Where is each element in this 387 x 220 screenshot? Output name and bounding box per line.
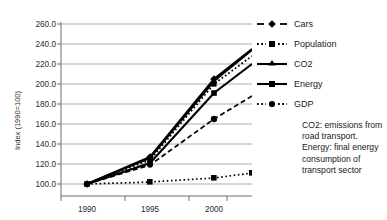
legend-item-population: Population xyxy=(256,34,387,54)
y-tick-label: 100.0 xyxy=(36,180,57,189)
line-chart: Index (1990=100) 100.0 120.0 140.0 160.0… xyxy=(0,0,252,220)
legend-item-energy: Energy xyxy=(256,74,387,94)
legend-label: Energy xyxy=(294,80,323,89)
x-tick-label: 2000 xyxy=(205,205,224,214)
y-tick-label: 120.0 xyxy=(36,160,57,169)
series-co2 xyxy=(84,50,252,186)
legend-label: Cars xyxy=(294,20,313,29)
series-long-dash xyxy=(87,96,252,184)
x-tick-label: 1995 xyxy=(141,205,160,214)
y-axis-tick-labels: 100.0 120.0 140.0 160.0 180.0 200.0 220.… xyxy=(36,20,57,189)
legend-label: GDP xyxy=(294,100,314,109)
dot-circle-key xyxy=(256,97,294,111)
y-tick-label: 200.0 xyxy=(36,80,57,89)
chart-figure: Index (1990=100) 100.0 120.0 140.0 160.0… xyxy=(0,0,387,220)
legend-item-gdp: GDP xyxy=(256,94,387,114)
legend-label: Population xyxy=(294,40,337,49)
solid-square-key xyxy=(256,77,294,91)
x-tick-label: 1990 xyxy=(78,205,97,214)
y-tick-label: 140.0 xyxy=(36,140,57,149)
legend-item-co2: CO2 xyxy=(256,54,387,74)
dash-diamond-key xyxy=(256,17,294,31)
y-axis-title: Index (1990=100) xyxy=(13,90,22,150)
chart-plot-panel: Index (1990=100) 100.0 120.0 140.0 160.0… xyxy=(0,0,252,220)
series-energy xyxy=(84,64,252,187)
chart-note: CO2: emissions from road transport. Ener… xyxy=(302,120,387,176)
y-tick-label: 180.0 xyxy=(36,100,57,109)
legend-label: CO2 xyxy=(294,60,313,69)
dot-square-key xyxy=(256,37,294,51)
y-tick-label: 220.0 xyxy=(36,60,57,69)
x-axis-tick-labels: 1990 1995 2000 2003 xyxy=(78,205,252,214)
y-axis-line xyxy=(57,22,61,196)
chart-legend: Cars Population CO2 Energy xyxy=(256,14,387,114)
series-cars xyxy=(83,49,252,188)
solid-triangle-key xyxy=(256,57,294,71)
series-population xyxy=(87,56,252,184)
x-axis-line xyxy=(61,196,252,201)
y-tick-label: 160.0 xyxy=(36,120,57,129)
y-tick-label: 240.0 xyxy=(36,40,57,49)
y-tick-label: 260.0 xyxy=(36,20,57,29)
legend-item-cars: Cars xyxy=(256,14,387,34)
